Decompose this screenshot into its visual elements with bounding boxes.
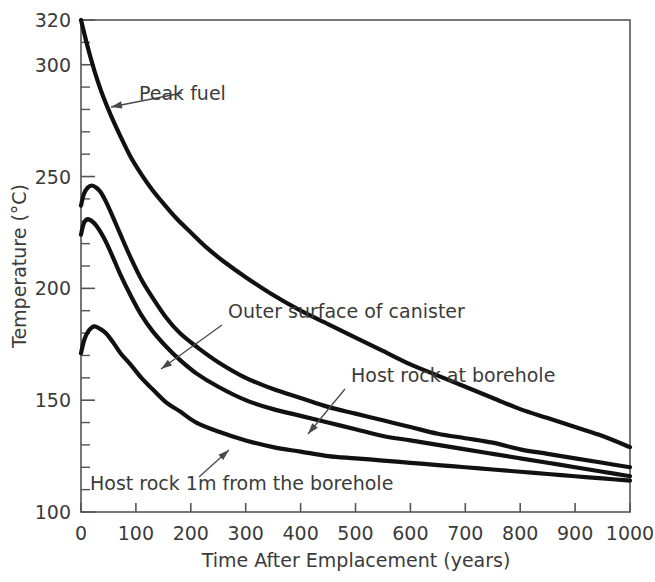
series-line-3	[81, 326, 630, 480]
annotation-leader-1	[161, 325, 222, 369]
chart-container: 01002003004005006007008009001000 1001502…	[0, 0, 655, 582]
y-tick-label-200: 200	[35, 277, 71, 299]
annotation-label-0: Peak fuel	[139, 82, 226, 104]
x-tick-label-0: 0	[75, 522, 87, 544]
annotation-1: Outer surface of canister	[161, 300, 465, 369]
x-tick-label-500: 500	[337, 522, 373, 544]
annotation-2: Host rock at borehole	[308, 364, 555, 434]
x-tick-label-400: 400	[282, 522, 318, 544]
annotation-label-1: Outer surface of canister	[228, 300, 465, 322]
x-tick-label-300: 300	[228, 522, 264, 544]
x-axis-title: Time After Emplacement (years)	[201, 549, 511, 571]
y-axis-title: Temperature (°C)	[8, 184, 30, 349]
annotation-label-2: Host rock at borehole	[351, 364, 555, 386]
x-tick-label-100: 100	[118, 522, 154, 544]
x-tick-label-700: 700	[447, 522, 483, 544]
annotation-arrowhead-0	[111, 101, 122, 108]
y-tick-label-250: 250	[35, 166, 71, 188]
y-tick-label-320: 320	[35, 9, 71, 31]
temperature-vs-time-line-chart: 01002003004005006007008009001000 1001502…	[0, 0, 655, 582]
annotation-label-3: Host rock 1m from the borehole	[90, 472, 393, 494]
series-line-1	[81, 185, 630, 467]
series-annotations: Peak fuelOuter surface of canisterHost r…	[90, 82, 555, 494]
series-line-2	[81, 219, 630, 476]
x-tick-label-200: 200	[173, 522, 209, 544]
y-tick-label-100: 100	[35, 501, 71, 523]
y-tick-label-150: 150	[35, 389, 71, 411]
x-tick-label-800: 800	[502, 522, 538, 544]
x-axis-tick-labels: 01002003004005006007008009001000	[75, 522, 654, 544]
x-tick-label-600: 600	[392, 522, 428, 544]
x-tick-label-900: 900	[557, 522, 593, 544]
x-tick-label-1000: 1000	[606, 522, 654, 544]
y-axis-tick-labels: 100150200250300320	[35, 9, 71, 523]
y-tick-label-300: 300	[35, 54, 71, 76]
annotation-0: Peak fuel	[111, 82, 226, 108]
annotation-arrowhead-1	[161, 360, 172, 369]
